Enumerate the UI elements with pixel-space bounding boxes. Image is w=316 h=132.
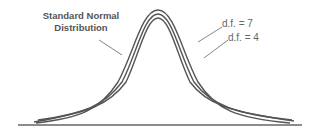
label-standard-normal-line1: Standard Normal xyxy=(43,10,120,21)
label-df-7: d.f. = 7 xyxy=(222,18,253,29)
label-standard-normal-line2: Distribution xyxy=(54,22,107,33)
leader-line-df-4 xyxy=(204,40,228,58)
label-df-4: d.f. = 4 xyxy=(228,32,259,43)
leader-line-df-7 xyxy=(198,27,222,42)
t-distribution-diagram: Standard Normal Distribution d.f. = 7 d.… xyxy=(0,0,316,132)
leader-line-standard-normal xyxy=(99,40,122,55)
diagram-canvas: Standard Normal Distribution d.f. = 7 d.… xyxy=(0,0,316,132)
